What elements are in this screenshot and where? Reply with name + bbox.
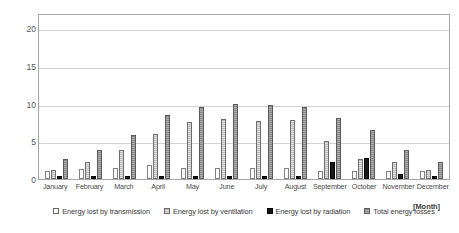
bar-total-february <box>97 150 102 179</box>
legend-item-ventilation[interactable]: Energy lost by ventilation <box>164 207 253 216</box>
bar-ventilation-july <box>256 121 261 179</box>
bar-group-december <box>415 15 449 179</box>
bar-transmission-november <box>386 171 391 179</box>
bar-transmission-january <box>45 171 50 179</box>
bar-ventilation-december <box>426 170 431 179</box>
y-tick-label-10: 10 <box>14 100 36 109</box>
bar-radiation-february <box>91 176 96 179</box>
bar-group-august <box>278 15 312 179</box>
bar-radiation-january <box>57 176 62 179</box>
bar-transmission-june <box>215 168 220 179</box>
chart-legend: Energy lost by transmissionEnergy lost b… <box>38 203 450 219</box>
legend-swatch-radiation-icon <box>267 208 273 214</box>
bar-transmission-july <box>250 168 255 179</box>
x-label-april: April <box>141 182 175 198</box>
bar-group-april <box>142 15 176 179</box>
bar-radiation-december <box>432 176 437 179</box>
bar-radiation-april <box>159 176 164 179</box>
bar-transmission-august <box>284 168 289 179</box>
y-tick-label-5: 5 <box>14 138 36 147</box>
bar-total-april <box>165 115 170 179</box>
x-axis-title: [Month] <box>413 202 440 211</box>
bar-transmission-december <box>420 171 425 179</box>
y-tick-label-15: 15 <box>14 63 36 72</box>
legend-swatch-ventilation-icon <box>164 208 170 214</box>
bar-total-september <box>336 118 341 179</box>
x-label-may: May <box>175 182 209 198</box>
bar-radiation-october <box>364 158 369 179</box>
bar-ventilation-june <box>221 119 226 179</box>
legend-item-radiation[interactable]: Energy lost by radiation <box>267 207 351 216</box>
legend-item-transmission[interactable]: Energy lost by transmission <box>53 207 150 216</box>
plot-area <box>38 14 450 180</box>
legend-swatch-total-icon <box>364 208 370 214</box>
x-axis-category-labels: JanuaryFebruaryMarchAprilMayJuneJulyAugu… <box>38 182 450 198</box>
bar-transmission-february <box>79 169 84 179</box>
bar-radiation-june <box>227 176 232 179</box>
bar-total-january <box>63 159 68 179</box>
bar-transmission-september <box>318 171 323 179</box>
bar-group-march <box>107 15 141 179</box>
x-label-june: June <box>210 182 244 198</box>
bar-group-may <box>176 15 210 179</box>
bar-ventilation-august <box>290 120 295 179</box>
energy-losses-bar-chart: [MJ m-2 d-1] 05101520 JanuaryFebruaryMar… <box>0 0 459 233</box>
bar-ventilation-october <box>358 159 363 179</box>
bar-ventilation-january <box>51 170 56 179</box>
bar-radiation-july <box>262 176 267 179</box>
bar-group-september <box>312 15 346 179</box>
bar-radiation-september <box>330 162 335 179</box>
bar-transmission-october <box>352 171 357 179</box>
bar-transmission-april <box>147 165 152 179</box>
bar-group-july <box>244 15 278 179</box>
bar-ventilation-september <box>324 141 329 179</box>
bar-total-march <box>131 135 136 179</box>
bar-group-february <box>73 15 107 179</box>
x-label-february: February <box>72 182 106 198</box>
bar-total-november <box>404 150 409 179</box>
y-axis-tick-labels: 05101520 <box>10 0 36 233</box>
bar-total-december <box>438 162 443 179</box>
bar-total-october <box>370 130 375 179</box>
bar-total-july <box>268 105 273 179</box>
bar-radiation-may <box>193 176 198 179</box>
x-label-december: December <box>416 182 450 198</box>
legend-swatch-transmission-icon <box>53 208 59 214</box>
bar-radiation-march <box>125 176 130 179</box>
x-label-january: January <box>38 182 72 198</box>
y-tick-label-20: 20 <box>14 25 36 34</box>
bar-ventilation-march <box>119 150 124 179</box>
legend-label-radiation: Energy lost by radiation <box>276 207 351 216</box>
bar-ventilation-february <box>85 162 90 179</box>
bar-total-june <box>233 104 238 179</box>
bar-group-november <box>381 15 415 179</box>
x-label-july: July <box>244 182 278 198</box>
x-label-august: August <box>278 182 312 198</box>
bar-group-january <box>39 15 73 179</box>
x-label-september: September <box>313 182 347 198</box>
bar-radiation-november <box>398 174 403 179</box>
x-label-march: March <box>107 182 141 198</box>
legend-label-ventilation: Energy lost by ventilation <box>173 207 253 216</box>
bar-ventilation-april <box>153 134 158 179</box>
bars-layer <box>39 15 449 179</box>
y-tick-label-0: 0 <box>14 176 36 185</box>
bar-radiation-august <box>296 176 301 179</box>
bar-transmission-may <box>181 168 186 179</box>
bar-total-august <box>302 107 307 179</box>
bar-group-june <box>210 15 244 179</box>
bar-group-october <box>347 15 381 179</box>
legend-label-transmission: Energy lost by transmission <box>62 207 150 216</box>
bar-ventilation-may <box>187 122 192 179</box>
bar-transmission-march <box>113 168 118 179</box>
x-label-october: October <box>347 182 381 198</box>
x-label-november: November <box>381 182 415 198</box>
bar-total-may <box>199 107 204 179</box>
bar-ventilation-november <box>392 162 397 179</box>
